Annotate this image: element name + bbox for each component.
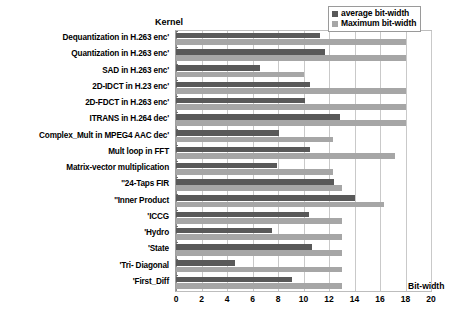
bar-row bbox=[176, 259, 431, 275]
bar-row bbox=[176, 64, 431, 80]
x-axis-tick-labels: 02468101214161820 bbox=[175, 294, 433, 308]
y-axis-tick-label: ITRANS in H.264 dec' bbox=[90, 111, 169, 127]
bar-average-bit-width bbox=[176, 277, 292, 283]
bar-maximum-bit-width bbox=[176, 39, 406, 45]
y-axis-tick-label: 'Tri- Diagonal bbox=[120, 258, 169, 274]
y-axis-tick bbox=[176, 31, 178, 32]
y-axis-title: Kernel bbox=[155, 17, 183, 27]
x-axis-tick-label: 4 bbox=[225, 294, 230, 304]
bar-row bbox=[176, 161, 431, 177]
y-axis-tick-label: 'ICCG bbox=[147, 209, 169, 225]
x-axis-tick-label: 6 bbox=[250, 294, 255, 304]
y-axis-tick bbox=[176, 112, 178, 113]
y-axis-tick-label: 'Hydro bbox=[144, 225, 169, 241]
y-axis-tick-label: 2D-FDCT in H.263 enc' bbox=[85, 95, 169, 111]
bar-maximum-bit-width bbox=[176, 202, 384, 208]
y-axis-tick bbox=[176, 129, 178, 130]
x-axis-tick-label: 16 bbox=[375, 294, 384, 304]
x-axis-tick-label: 12 bbox=[324, 294, 333, 304]
bar-average-bit-width bbox=[176, 195, 355, 201]
bar-maximum-bit-width bbox=[176, 185, 342, 191]
y-axis-tick bbox=[176, 259, 178, 260]
bar-average-bit-width bbox=[176, 49, 325, 55]
y-axis-tick-label: ''24-Taps FIR bbox=[121, 176, 169, 192]
y-axis-tick-label: Complex_Mult in MPEG4 AAC dec' bbox=[39, 128, 169, 144]
y-axis-tick bbox=[176, 275, 178, 276]
y-axis-tick bbox=[176, 161, 178, 162]
y-axis-tick-label: Matrix-vector multiplication bbox=[66, 160, 169, 176]
y-axis-tick-label: Dequantization in H.263 enc' bbox=[63, 30, 169, 46]
y-axis-tick bbox=[176, 226, 178, 227]
bar-average-bit-width bbox=[176, 33, 320, 39]
bar-row bbox=[176, 47, 431, 63]
y-axis-tick-label: SAD in H.263 enc' bbox=[102, 63, 169, 79]
bar-average-bit-width bbox=[176, 98, 305, 104]
bar-row bbox=[176, 129, 431, 145]
bar-average-bit-width bbox=[176, 65, 260, 71]
bar-maximum-bit-width bbox=[176, 55, 406, 61]
bar-row bbox=[176, 242, 431, 258]
y-axis-tick-labels: Dequantization in H.263 enc'Quantization… bbox=[0, 30, 172, 292]
bar-maximum-bit-width bbox=[176, 250, 342, 256]
bar-row bbox=[176, 96, 431, 112]
bar-maximum-bit-width bbox=[176, 104, 406, 110]
x-axis-title: Bit-width bbox=[408, 281, 444, 291]
bar-row bbox=[176, 112, 431, 128]
bar-average-bit-width bbox=[176, 147, 310, 153]
bar-row bbox=[176, 210, 431, 226]
bar-average-bit-width bbox=[176, 163, 277, 169]
bar-average-bit-width bbox=[176, 82, 310, 88]
bar-chart: average bit-width Maximum bit-width Kern… bbox=[0, 0, 470, 323]
y-axis-tick bbox=[176, 194, 178, 195]
bar-row bbox=[176, 177, 431, 193]
bar-maximum-bit-width bbox=[176, 72, 304, 78]
bar-row bbox=[176, 226, 431, 242]
y-axis-tick-label: 'State bbox=[148, 241, 169, 257]
y-axis-tick bbox=[176, 96, 178, 97]
x-axis-tick-label: 2 bbox=[199, 294, 204, 304]
bar-row bbox=[176, 80, 431, 96]
legend-swatch-maximum-bit-width bbox=[332, 21, 338, 27]
y-axis-tick bbox=[176, 80, 178, 81]
bar-average-bit-width bbox=[176, 130, 279, 136]
legend-label-maximum-bit-width: Maximum bit-width bbox=[341, 19, 416, 29]
bar-maximum-bit-width bbox=[176, 153, 395, 159]
x-axis-tick-label: 10 bbox=[299, 294, 308, 304]
y-axis-tick-label: Quantization in H.263 enc' bbox=[71, 46, 169, 62]
bar-maximum-bit-width bbox=[176, 137, 333, 143]
bar-maximum-bit-width bbox=[176, 88, 406, 94]
bar-row bbox=[176, 31, 431, 47]
x-axis-tick-label: 8 bbox=[276, 294, 281, 304]
y-axis-tick bbox=[176, 47, 178, 48]
y-axis-tick-label: 2D-IDCT in H.23 enc' bbox=[92, 79, 169, 95]
bar-maximum-bit-width bbox=[176, 267, 342, 273]
y-axis-tick-label: ''Inner Product bbox=[114, 193, 169, 209]
bar-average-bit-width bbox=[176, 212, 309, 218]
bar-average-bit-width bbox=[176, 228, 272, 234]
bar-average-bit-width bbox=[176, 179, 334, 185]
y-axis-tick bbox=[176, 64, 178, 65]
x-axis-tick-label: 14 bbox=[350, 294, 359, 304]
y-axis-tick-label: Mult loop in FFT bbox=[108, 144, 169, 160]
bar-row bbox=[176, 275, 431, 291]
y-axis-tick bbox=[176, 210, 178, 211]
bar-row bbox=[176, 145, 431, 161]
x-axis-tick-label: 20 bbox=[426, 294, 435, 304]
bar-maximum-bit-width bbox=[176, 120, 406, 126]
bar-maximum-bit-width bbox=[176, 169, 333, 175]
y-axis-tick bbox=[176, 145, 178, 146]
bar-rows bbox=[176, 31, 431, 291]
bar-maximum-bit-width bbox=[176, 218, 342, 224]
legend-entry-maximum: Maximum bit-width bbox=[332, 19, 416, 29]
bar-average-bit-width bbox=[176, 244, 312, 250]
bar-maximum-bit-width bbox=[176, 234, 342, 240]
y-axis-tick bbox=[176, 242, 178, 243]
bar-row bbox=[176, 194, 431, 210]
y-axis-tick-label: 'First_Diff bbox=[133, 274, 169, 290]
x-axis-tick-label: 18 bbox=[401, 294, 410, 304]
bar-average-bit-width bbox=[176, 114, 340, 120]
bar-average-bit-width bbox=[176, 260, 235, 266]
y-axis-tick bbox=[176, 177, 178, 178]
legend-swatch-average-bit-width bbox=[332, 11, 338, 17]
plot-area bbox=[175, 30, 432, 292]
